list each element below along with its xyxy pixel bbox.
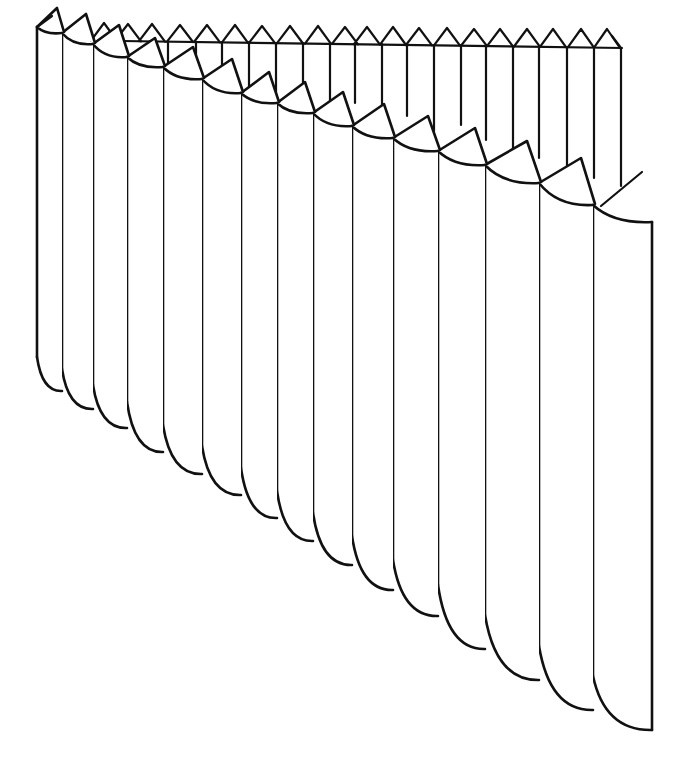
front-pleat	[539, 158, 595, 710]
pleat-face	[352, 126, 393, 590]
front-pleat	[127, 38, 165, 452]
pleat-face	[62, 33, 93, 409]
front-pleat	[37, 8, 64, 391]
pleat-face	[127, 57, 163, 452]
pleat-drawing-svg	[0, 0, 678, 758]
pleat-face	[593, 205, 652, 730]
pleat-face	[277, 103, 313, 541]
pleat-face	[539, 183, 593, 710]
back-end-tick	[612, 36, 621, 48]
front-pleat	[485, 141, 541, 680]
front-pleat	[593, 205, 652, 730]
front-pleat	[241, 72, 279, 518]
front-pleat	[202, 59, 243, 495]
pleated-sheet-illustration	[0, 0, 678, 758]
pleat-face	[313, 113, 352, 565]
pleat-face	[393, 138, 438, 616]
front-pleat	[438, 128, 487, 649]
pleat-face	[485, 165, 539, 680]
front-pleat	[163, 47, 204, 474]
front-pleat	[352, 104, 395, 590]
pleat-face	[37, 27, 62, 391]
pleat-face	[93, 44, 127, 428]
pleat-face	[241, 93, 277, 518]
front-pleat	[62, 14, 95, 409]
pleat-face	[438, 151, 485, 649]
front-pleat	[393, 116, 440, 616]
pleat-face	[202, 79, 241, 495]
pleat-face	[163, 67, 202, 474]
front-pleat	[277, 82, 315, 541]
front-pleat	[93, 25, 129, 428]
front-pleat	[313, 92, 354, 565]
front-pleat-row	[37, 8, 652, 730]
